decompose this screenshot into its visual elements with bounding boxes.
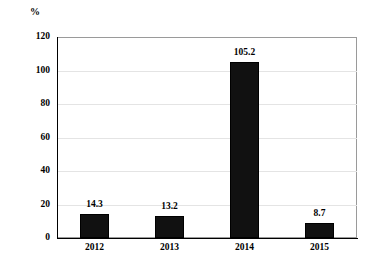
y-axis-tick-label: 40 xyxy=(4,166,50,176)
bar-value-label: 14.3 xyxy=(62,200,127,210)
y-axis-tick-label: 20 xyxy=(4,200,50,210)
gridline xyxy=(58,104,357,105)
x-axis-tick-label: 2015 xyxy=(290,243,350,253)
bar-chart: % 020406080100120 14.313.2105.28.7 20122… xyxy=(0,0,384,268)
x-axis-tick-label: 2013 xyxy=(140,243,200,253)
bar xyxy=(80,214,109,238)
x-axis-tick-label: 2012 xyxy=(65,243,125,253)
y-axis-tick-label: 120 xyxy=(4,32,50,42)
x-axis-line xyxy=(57,238,358,239)
x-axis-tick-label: 2014 xyxy=(215,243,275,253)
gridline xyxy=(58,71,357,72)
y-axis-unit-label: % xyxy=(30,6,40,17)
gridline xyxy=(58,138,357,139)
bar-value-label: 13.2 xyxy=(137,202,202,212)
gridline xyxy=(58,171,357,172)
bar xyxy=(155,216,184,238)
y-axis-tick-label: 100 xyxy=(4,66,50,76)
bar-value-label: 8.7 xyxy=(287,209,352,219)
y-axis-tick-label: 80 xyxy=(4,99,50,109)
y-axis-line xyxy=(57,37,58,239)
y-axis-tick-label: 60 xyxy=(4,133,50,143)
y-axis-tick-label: 0 xyxy=(4,233,50,243)
bar xyxy=(230,62,259,238)
bar xyxy=(305,223,334,238)
bar-value-label: 105.2 xyxy=(212,48,277,58)
